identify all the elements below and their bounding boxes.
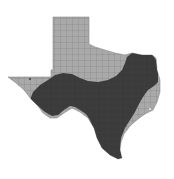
city-marker [29,78,31,80]
city-marker [149,108,151,110]
map-container: Texas counties Distribution range [0,0,174,179]
texas-map [0,0,174,179]
